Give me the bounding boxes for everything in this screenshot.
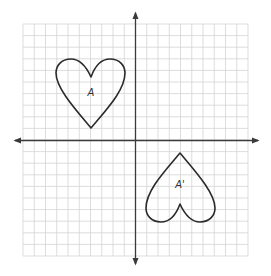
coordinate-plane-diagram: A A' xyxy=(0,0,271,276)
label-a-prime: A' xyxy=(174,179,185,190)
label-a: A xyxy=(87,87,95,98)
